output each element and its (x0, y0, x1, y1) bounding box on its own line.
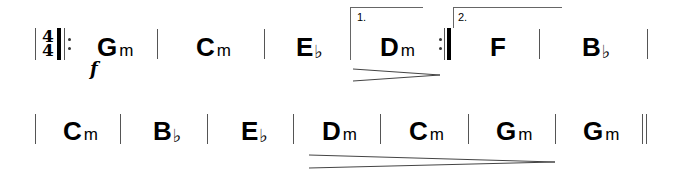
chord-root: C (409, 116, 428, 146)
chord-symbol: F (490, 34, 508, 60)
barline (35, 28, 36, 60)
hairpin-upper-line (353, 69, 440, 75)
chord-quality: m (430, 125, 444, 144)
repeat-end-thick-bar (447, 28, 451, 60)
first-ending-label: 1. (357, 11, 366, 23)
barline (120, 114, 121, 144)
chord-symbol: E♭ (241, 118, 268, 144)
dynamic-forte: f (90, 58, 98, 79)
chord-root: G (496, 116, 516, 146)
chord-symbol: Cm (409, 118, 444, 144)
chord-symbol: Gm (496, 118, 532, 144)
chord-quality: m (518, 125, 532, 144)
chord-root: D (380, 32, 399, 62)
repeat-start-thin-bar (64, 28, 65, 60)
barline (647, 29, 648, 59)
chord-quality: m (119, 41, 133, 60)
chord-quality: m (343, 125, 357, 144)
barline (207, 114, 208, 144)
chord-symbol: B♭ (582, 34, 610, 60)
chord-symbol: Cm (196, 34, 231, 60)
chord-symbol: B♭ (153, 118, 181, 144)
chord-root: B (582, 32, 601, 62)
repeat-dot (439, 38, 442, 41)
chord-quality: m (605, 125, 619, 144)
chord-quality: m (84, 125, 98, 144)
barline (539, 29, 540, 59)
decrescendo-hairpin (350, 64, 445, 84)
hairpin-lower-line (309, 162, 555, 168)
barline (264, 29, 265, 59)
chord-root: B (153, 116, 172, 146)
repeat-end-thin-bar (444, 28, 445, 60)
second-ending-label: 2. (458, 11, 467, 23)
second-ending-bracket (453, 7, 562, 28)
chord-root: C (196, 32, 215, 62)
chord-symbol: Gm (583, 118, 619, 144)
barline (555, 114, 556, 144)
hairpin-lower-line (353, 75, 440, 81)
repeat-dot (68, 47, 71, 50)
hairpin-upper-line (309, 155, 555, 162)
chord-root: G (583, 116, 603, 146)
flat-accidental: ♭ (314, 41, 323, 62)
barline (157, 29, 158, 59)
barline (35, 114, 36, 144)
time-signature-denominator: 4 (42, 43, 54, 57)
barline (380, 114, 381, 144)
chord-root: F (490, 32, 506, 62)
final-double-barline-2 (646, 114, 647, 144)
flat-accidental: ♭ (602, 41, 611, 62)
chord-symbol: Dm (322, 118, 357, 144)
flat-accidental: ♭ (259, 125, 268, 146)
chord-symbol: E♭ (296, 34, 323, 60)
chord-root: E (296, 32, 313, 62)
chord-root: D (322, 116, 341, 146)
flat-accidental: ♭ (173, 125, 182, 146)
chord-quality: m (217, 41, 231, 60)
barline (293, 114, 294, 144)
repeat-dot (439, 47, 442, 50)
chord-symbol: Dm (380, 34, 415, 60)
decrescendo-hairpin (305, 150, 560, 170)
repeat-start-thick-bar (57, 28, 61, 60)
chord-symbol: Cm (63, 118, 98, 144)
chord-root: G (97, 32, 117, 62)
final-double-barline-1 (642, 114, 643, 144)
barline (468, 114, 469, 144)
repeat-dot (68, 38, 71, 41)
chord-root: C (63, 116, 82, 146)
chord-quality: m (401, 41, 415, 60)
chord-symbol: Gm (97, 34, 133, 60)
time-signature: 4 4 (42, 29, 54, 57)
chord-root: E (241, 116, 258, 146)
